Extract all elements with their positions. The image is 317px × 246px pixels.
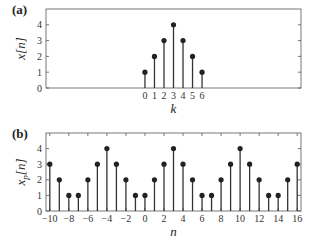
stem-marker [161,162,166,167]
stem-marker [104,146,109,151]
y-tick-label: 2 [37,174,42,185]
x-tick-label: 10 [235,213,245,224]
stem-marker [285,177,290,182]
y-tick-label: 3 [37,35,42,46]
x-tick-label: 6 [200,213,205,224]
stem-marker [123,177,128,182]
x-tick-label: 4 [181,213,186,224]
stem-marker [161,38,166,43]
stem-marker [180,162,185,167]
stem-marker [199,70,204,75]
y-axis-label: x[n] [13,37,28,60]
stem-marker [228,162,233,167]
x-tick-label: −2 [121,213,132,224]
stem-marker [57,177,62,182]
stem-marker [209,193,214,198]
panel-a: 012340123456(a)kx[n] [12,2,301,116]
stem-marker [247,162,252,167]
stem-marker [180,38,185,43]
y-axis-label: xp[n] [13,159,30,187]
stem-marker [190,177,195,182]
y-tick-label: 0 [37,83,42,94]
stem-figure: 012340123456(a)kx[n] 01234−10−8−6−4−2024… [0,0,317,246]
x-tick-label: −8 [64,213,75,224]
panel-label: (b) [12,126,28,141]
x-tick-label: 4 [181,90,186,101]
stem-marker [76,193,81,198]
stem-marker [218,177,223,182]
stem-marker [171,22,176,27]
stem-marker [142,193,147,198]
y-tick-label: 3 [37,159,42,170]
x-tick-label: 0 [142,213,147,224]
x-tick-label: −6 [83,213,94,224]
x-tick-label: −4 [102,213,113,224]
stem-marker [266,193,271,198]
stem-marker [133,193,138,198]
stem-marker [199,193,204,198]
stem-marker [190,54,195,59]
x-tick-label: 16 [292,213,302,224]
y-tick-label: 4 [37,143,42,154]
stem-marker [47,162,52,167]
stem-marker [142,70,147,75]
x-tick-label: 14 [273,213,283,224]
stem-marker [238,146,243,151]
x-tick-label: 0 [142,90,147,101]
panel-b: 01234−10−8−6−4−20246810121416(b)nxp[n] [12,126,302,239]
y-tick-label: 4 [37,19,42,30]
x-axis-label: n [170,224,177,239]
x-tick-label: 12 [254,213,264,224]
x-tick-label: 2 [161,90,166,101]
stem-marker [114,162,119,167]
panel-label: (a) [12,2,27,17]
x-tick-label: 2 [161,213,166,224]
stem-marker [152,54,157,59]
stem-marker [276,193,281,198]
stem-marker [257,177,262,182]
stem-marker [152,177,157,182]
y-tick-label: 1 [37,190,42,201]
stem-marker [66,193,71,198]
y-tick-label: 2 [37,51,42,62]
stem-marker [295,162,300,167]
x-tick-label: 5 [190,90,195,101]
stem-marker [95,162,100,167]
stem-marker [85,177,90,182]
stem-marker [171,146,176,151]
x-tick-label: 1 [152,90,157,101]
x-axis-label: k [171,101,177,116]
x-tick-label: 8 [219,213,224,224]
x-tick-label: 3 [171,90,176,101]
y-tick-label: 1 [37,67,42,78]
x-tick-label: −10 [42,213,58,224]
x-tick-label: 6 [200,90,205,101]
